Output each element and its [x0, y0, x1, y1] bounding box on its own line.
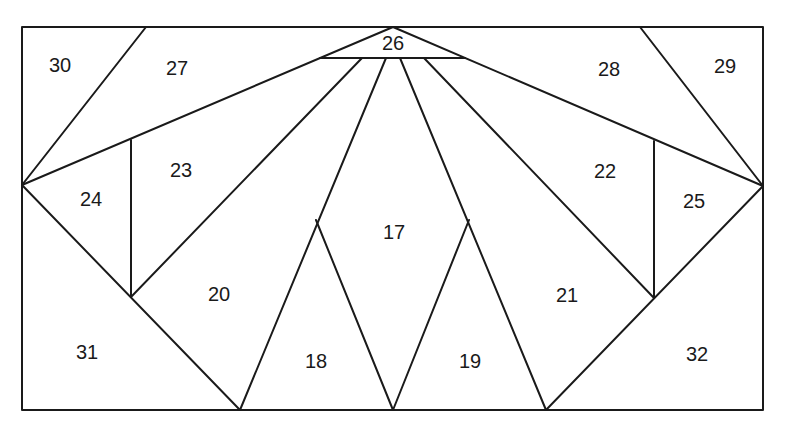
piece-seam-lines [22, 27, 763, 410]
piece-label-32: 32 [686, 343, 708, 365]
seam-line [424, 58, 654, 298]
piece-label-22: 22 [594, 160, 616, 182]
piece-label-25: 25 [683, 190, 705, 212]
piece-label-21: 21 [556, 284, 578, 306]
piece-label-17: 17 [383, 221, 405, 243]
seam-line [22, 27, 146, 185]
seam-line [316, 220, 393, 410]
seam-line [640, 27, 763, 186]
pattern-diagram: 17181920212223242526272829303132 [0, 0, 790, 424]
piece-label-27: 27 [166, 57, 188, 79]
piece-label-30: 30 [49, 54, 71, 76]
piece-label-29: 29 [714, 55, 736, 77]
piece-label-23: 23 [170, 159, 192, 181]
piece-label-28: 28 [598, 58, 620, 80]
seam-line [131, 58, 362, 297]
seam-line [393, 27, 763, 186]
piece-label-24: 24 [80, 188, 102, 210]
piece-label-20: 20 [208, 283, 230, 305]
piece-label-31: 31 [76, 341, 98, 363]
piece-label-26: 26 [382, 32, 404, 54]
outer-frame [22, 27, 763, 410]
seam-line [22, 27, 393, 185]
piece-label-19: 19 [459, 350, 481, 372]
seam-line [393, 220, 469, 410]
piece-label-18: 18 [305, 350, 327, 372]
